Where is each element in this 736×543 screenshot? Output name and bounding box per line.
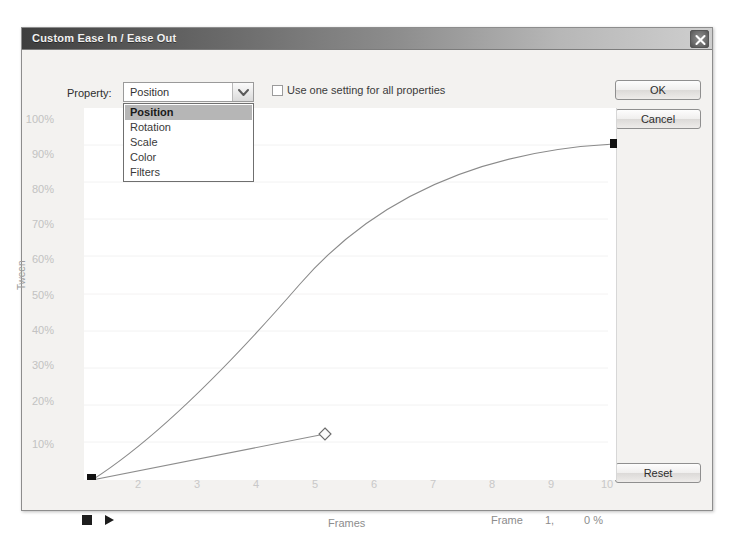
- start-anchor-point: [87, 474, 96, 480]
- cancel-button[interactable]: Cancel: [615, 109, 701, 129]
- status-percent-value: 0 %: [584, 514, 603, 526]
- y-tick-40: 40%: [20, 324, 54, 336]
- y-tick-70: 70%: [20, 218, 54, 230]
- tangent-handle-line: [92, 434, 325, 480]
- property-option-scale[interactable]: Scale: [125, 135, 252, 150]
- y-axis-title: Tween: [16, 261, 27, 290]
- checkbox-box[interactable]: [272, 85, 283, 96]
- use-one-setting-label: Use one setting for all properties: [287, 84, 445, 96]
- property-select-dropdown[interactable]: Position Rotation Scale Color Filters: [123, 103, 254, 182]
- handle-point: [319, 428, 331, 440]
- y-tick-50: 50%: [20, 289, 54, 301]
- transport-controls[interactable]: [81, 512, 125, 528]
- property-select-value: Position: [130, 86, 169, 98]
- dialog-titlebar: Custom Ease In / Ease Out: [22, 28, 712, 50]
- screenshot-root: Custom Ease In / Ease Out Property: Posi…: [0, 0, 736, 543]
- property-label: Property:: [67, 87, 112, 99]
- close-icon[interactable]: [690, 30, 709, 48]
- dialog-title: Custom Ease In / Ease Out: [32, 32, 176, 44]
- x-axis-title: Frames: [328, 517, 365, 529]
- property-option-color[interactable]: Color: [125, 150, 252, 165]
- y-tick-30: 30%: [20, 359, 54, 371]
- ok-button[interactable]: OK: [615, 80, 701, 100]
- property-option-rotation[interactable]: Rotation: [125, 120, 252, 135]
- reset-button[interactable]: Reset: [615, 463, 701, 483]
- custom-ease-dialog: Custom Ease In / Ease Out Property: Posi…: [21, 27, 713, 511]
- stop-icon[interactable]: [81, 512, 99, 527]
- y-tick-100: 100%: [20, 113, 54, 125]
- play-icon[interactable]: [103, 512, 121, 527]
- property-option-position[interactable]: Position: [125, 105, 252, 120]
- grid-lines: [84, 145, 608, 442]
- y-tick-80: 80%: [20, 183, 54, 195]
- chevron-down-icon[interactable]: [232, 83, 253, 101]
- y-tick-90: 90%: [20, 148, 54, 160]
- status-frame-value: 1,: [545, 514, 554, 526]
- end-anchor-point: [610, 139, 617, 148]
- ease-curve-path: [92, 144, 614, 480]
- property-select[interactable]: Position: [123, 82, 254, 102]
- property-option-filters[interactable]: Filters: [125, 165, 252, 180]
- y-tick-10: 10%: [20, 438, 54, 450]
- status-frame-label: Frame: [491, 514, 523, 526]
- y-tick-20: 20%: [20, 395, 54, 407]
